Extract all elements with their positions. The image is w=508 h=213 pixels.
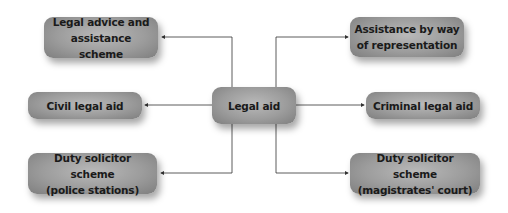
node-assistance-by-way-of-representation: Assistance by way of representation [350,17,464,57]
node-label: Legal aid [228,98,280,114]
node-duty-solicitor-magistrates-court: Duty solicitor scheme (magistrates' cour… [350,153,480,194]
node-criminal-legal-aid: Criminal legal aid [366,92,480,119]
node-label: Civil legal aid [47,98,124,114]
connector-to-legal-advice [162,37,232,88]
node-label: Criminal legal aid [373,98,473,114]
connector-to-assistance-representation [276,37,348,88]
node-label: Assistance by way of representation [355,21,460,53]
node-civil-legal-aid: Civil legal aid [28,92,142,119]
connector-to-duty-solicitor-police [161,123,232,173]
node-duty-solicitor-police-stations: Duty solicitor scheme (police stations) [28,153,157,194]
node-label: Legal advice and assistance scheme [48,14,154,62]
node-legal-aid: Legal aid [212,87,296,124]
node-legal-advice-assistance-scheme: Legal advice and assistance scheme [44,17,158,58]
legal-aid-diagram: Legal aid Legal advice and assistance sc… [0,0,508,213]
node-label: Duty solicitor scheme (police stations) [32,150,153,198]
node-label: Duty solicitor scheme (magistrates' cour… [354,150,476,198]
connector-to-duty-solicitor-magistrates [276,123,348,173]
